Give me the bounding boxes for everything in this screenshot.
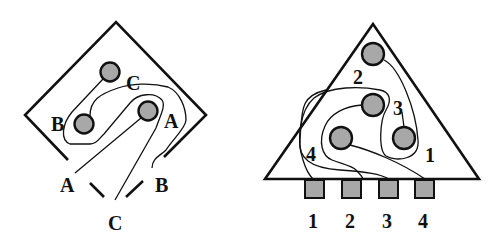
pad-label-4: 4 (418, 210, 428, 232)
pad-4 (415, 180, 434, 198)
diamond-package: C B A A B C (25, 22, 206, 234)
lead-stub-a (90, 183, 104, 197)
pin-2 (362, 43, 384, 65)
pad-label-3: 3 (382, 210, 392, 232)
pin-label-c: C (126, 72, 140, 94)
lead-stub-c (126, 181, 143, 197)
pin-1 (393, 127, 415, 149)
wire-c (63, 79, 163, 200)
lead-label-b: B (155, 174, 168, 196)
pin-label-1: 1 (425, 144, 435, 166)
pad-2 (342, 180, 361, 198)
lead-label-a: A (60, 174, 75, 196)
triangle-package: 2 3 4 1 1 2 3 4 (265, 24, 479, 232)
pin-label-b: B (51, 113, 64, 135)
pad-label-1: 1 (308, 210, 318, 232)
pin-a (139, 102, 158, 121)
pin-label-2: 2 (353, 66, 363, 88)
pin-label-4: 4 (306, 143, 316, 165)
pin-b (75, 115, 94, 134)
wire-pin4 (350, 145, 425, 179)
lead-label-c: C (108, 212, 122, 234)
pad-1 (305, 180, 324, 198)
pad-label-2: 2 (345, 210, 355, 232)
pin-4 (330, 127, 352, 149)
pin-c (101, 63, 120, 82)
diagram-canvas: C B A A B C 2 3 4 1 (0, 0, 501, 247)
pin-label-a: A (164, 110, 179, 132)
pin-label-3: 3 (393, 97, 403, 119)
pin-3 (362, 94, 384, 116)
pad-3 (379, 180, 398, 198)
